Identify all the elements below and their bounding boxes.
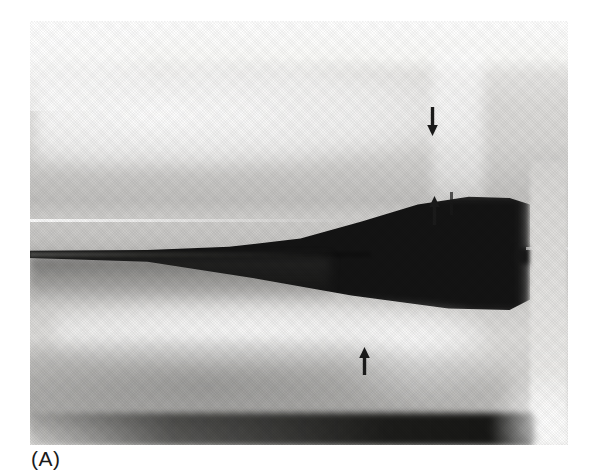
radiograph-image xyxy=(30,21,568,445)
halftone-noise-overlay xyxy=(30,21,568,445)
figure-page: (A) xyxy=(0,0,600,476)
panel-label: (A) xyxy=(31,446,61,472)
